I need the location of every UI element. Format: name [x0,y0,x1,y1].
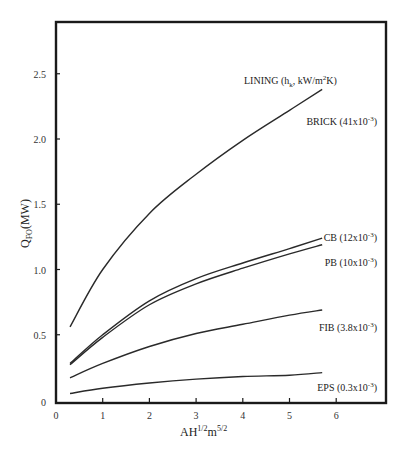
x-tick-label: 0 [54,410,59,421]
curve-labels: BRICK (41x10-3)CB (12x10-3)PB (10x10-3)F… [306,115,377,394]
label-fib: FIB (3.8x10-3) [319,321,377,334]
y-tick-label: 1.5 [34,199,47,210]
y-axis-title: QFO(MW) [18,199,34,248]
x-tick-label: 4 [240,410,245,421]
label-brick: BRICK (41x10-3) [306,115,377,128]
x-tick-label: 3 [194,410,199,421]
x-axis: 0123456 [54,398,339,421]
x-tick-label: 5 [287,410,292,421]
curves [70,89,322,393]
y-tick-label: 2.5 [34,69,47,80]
curve-cb [70,238,322,363]
chart-figure: 00.51.01.52.02.5 0123456 BRICK (41x10-3)… [0,0,404,451]
curve-fib [70,310,322,378]
label-eps: EPS (0.3x10-3) [317,381,377,394]
y-tick-label: 1.0 [34,265,47,276]
label-pb: PB (10x10-3) [325,256,377,269]
label-cb: CB (12x10-3) [324,231,377,244]
y-tick-label: 0.5 [34,330,47,341]
curve-eps [70,373,322,394]
x-tick-label: 6 [334,410,339,421]
x-tick-label: 2 [147,410,152,421]
y-tick-label: 2.0 [34,134,47,145]
curve-brick [70,89,322,327]
x-tick-label: 1 [100,410,105,421]
legend-header: LINING (hk, kW/m2K) [244,74,337,89]
x-axis-title: AH1/2m5/2 [180,424,227,439]
y-tick-label: 0 [41,397,46,408]
